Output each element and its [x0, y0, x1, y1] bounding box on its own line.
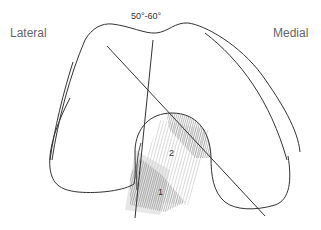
femur-medial-condyle-inner	[205, 33, 287, 160]
region-2-label: 2	[169, 148, 174, 158]
knee-diagram: 2 1	[0, 0, 321, 230]
region-1-label: 1	[158, 187, 163, 197]
femur-outline	[50, 98, 134, 193]
